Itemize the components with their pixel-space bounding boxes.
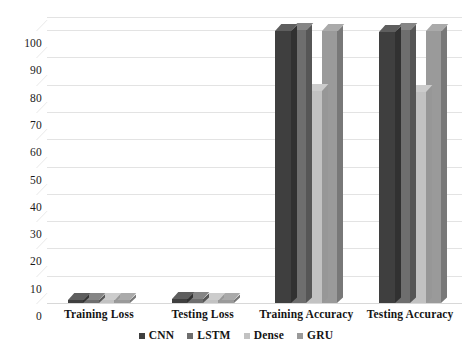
- legend-swatch-icon: [244, 333, 250, 339]
- bar-front-face: [68, 300, 84, 303]
- bar: [68, 300, 84, 303]
- x-axis-category-label: Training Loss: [47, 308, 151, 320]
- bar-group: [47, 14, 151, 306]
- bar-front-face: [379, 32, 395, 303]
- y-axis-tick-label: 30: [0, 229, 42, 241]
- bar-chart: 0102030405060708090100 Training LossTest…: [0, 0, 472, 354]
- legend-item[interactable]: Dense: [244, 330, 284, 342]
- bar: [114, 300, 130, 303]
- legend-item[interactable]: LSTM: [187, 330, 230, 342]
- y-axis-tick-label: 60: [0, 147, 42, 159]
- chart-legend: CNNLSTMDenseGRU: [0, 330, 472, 342]
- bar-side-face: [291, 26, 297, 303]
- y-axis-tick-label: 0: [0, 311, 42, 323]
- y-axis-tick-label: 40: [0, 202, 42, 214]
- legend-label: CNN: [149, 330, 175, 342]
- legend-label: LSTM: [197, 330, 230, 342]
- legend-label: Dense: [254, 330, 284, 342]
- bar-front-face: [114, 300, 130, 303]
- y-axis-tick-label: 20: [0, 257, 42, 269]
- y-axis-tick-label: 70: [0, 120, 42, 132]
- x-axis-category-label: Training Accuracy: [255, 308, 359, 320]
- x-axis-category-label: Testing Accuracy: [358, 308, 462, 320]
- bar: [379, 32, 395, 303]
- bar: [172, 299, 188, 303]
- bar-side-face: [410, 25, 416, 303]
- legend-item[interactable]: GRU: [297, 330, 333, 342]
- y-axis-tick-label: 10: [0, 284, 42, 296]
- y-axis-tick-label: 100: [0, 38, 42, 50]
- bar: [275, 31, 291, 303]
- bar-group: [151, 14, 255, 306]
- bar-front-face: [275, 31, 291, 303]
- bar-side-face: [306, 25, 312, 303]
- bar-front-face: [172, 299, 188, 303]
- y-axis-tick-label: 50: [0, 175, 42, 187]
- bar-side-face: [426, 87, 432, 303]
- legend-swatch-icon: [187, 333, 193, 339]
- plot-area: [47, 14, 462, 306]
- bar-side-face: [337, 25, 343, 303]
- bar-side-face: [441, 26, 447, 303]
- legend-item[interactable]: CNN: [139, 330, 175, 342]
- bar-side-face: [322, 86, 328, 303]
- legend-swatch-icon: [297, 333, 303, 339]
- legend-swatch-icon: [139, 333, 145, 339]
- bar-group: [358, 14, 462, 306]
- x-axis-category-label: Testing Loss: [151, 308, 255, 320]
- bar-group: [255, 14, 359, 306]
- y-axis-tick-label: 80: [0, 93, 42, 105]
- legend-label: GRU: [307, 330, 333, 342]
- bar-side-face: [395, 27, 401, 303]
- y-axis-tick-label: 90: [0, 66, 42, 78]
